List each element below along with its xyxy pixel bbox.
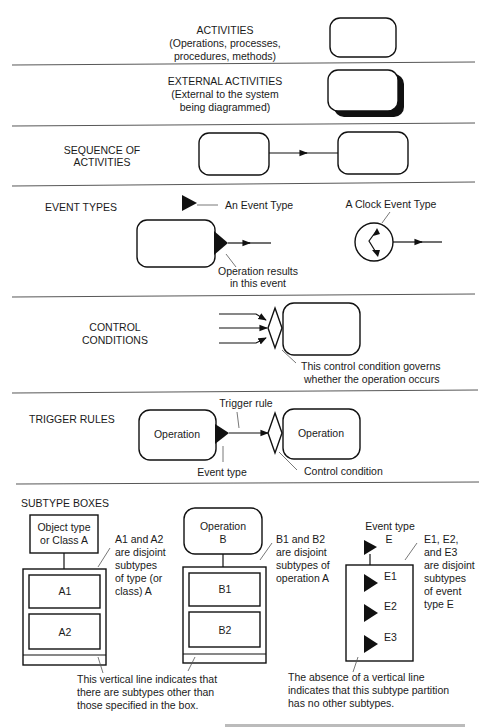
control-note-2: whether the operation occurs (303, 373, 439, 385)
subtype-b1-label: B1 (219, 583, 232, 595)
operation-parent-label-1: Operation (200, 520, 246, 532)
trigger-left-op-label: Operation (154, 428, 200, 440)
subtype-e2-label: E2 (384, 600, 397, 612)
event-note-6: type E (424, 598, 454, 610)
object-parent-label-2: or Class A (40, 534, 88, 546)
section-sequence: SEQUENCE OF ACTIVITIES (64, 132, 408, 175)
event-subtype-group: Event type E E1 E2 E3 E1, E2, and E3 are… (346, 520, 475, 661)
trigger-right-op-label: Operation (298, 427, 344, 439)
control-input-arrow-3 (219, 338, 266, 343)
sequence-title-2: ACTIVITIES (73, 156, 130, 168)
activities-subtitle-1: (Operations, processes, (169, 37, 280, 49)
activities-subtitle-2: procedures, methods) (174, 50, 276, 62)
control-input-arrow-1 (219, 314, 266, 320)
divider (12, 62, 475, 65)
sequence-activity-1 (199, 133, 269, 175)
trigger-control-condition-label: Control condition (304, 465, 383, 477)
event-result-triangle-icon (214, 231, 228, 255)
object-subtype-group: Object type or Class A A1 A2 A1 and A2 a… (23, 515, 166, 665)
object-parent-label-1: Object type (37, 521, 90, 533)
trigger-rule-label: Trigger rule (219, 397, 272, 409)
event-operation-shape (137, 220, 215, 267)
subtype-b2-label: B2 (219, 624, 232, 636)
divider (12, 390, 478, 393)
object-note-4: of type (or (115, 572, 163, 584)
operation-note-2: are disjoint (276, 546, 327, 558)
object-note-1: A1 and A2 (115, 533, 164, 545)
event-type-e-triangle-icon (364, 540, 377, 555)
leader-line (405, 543, 417, 560)
subtype-a1-label: A1 (59, 585, 72, 597)
object-note-3: subtypes (115, 559, 157, 571)
divider (12, 294, 475, 297)
vertical-line-note-3: those specified in the box. (77, 699, 198, 711)
event-result-label-1: Operation results (218, 265, 298, 277)
event-types-title: EVENT TYPES (45, 201, 117, 213)
control-conditions-title-2: CONDITIONS (82, 334, 148, 346)
external-activities-title: EXTERNAL ACTIVITIES (168, 75, 283, 87)
trigger-control-diamond-icon (268, 413, 282, 453)
divider (16, 482, 479, 484)
operation-note-1: B1 and B2 (276, 533, 325, 545)
section-subtype-boxes: SUBTYPE BOXES Object type or Class A A1 … (21, 497, 475, 711)
activities-title: ACTIVITIES (196, 24, 253, 36)
section-activities: ACTIVITIES (Operations, processes, proce… (169, 18, 396, 62)
control-condition-diamond-icon (268, 308, 282, 348)
event-parent-label-2: E (385, 533, 392, 545)
trigger-rules-title: TRIGGER RULES (29, 413, 115, 425)
leader-line (98, 548, 110, 567)
vertical-line-note-1: This vertical line indicates that (77, 673, 217, 685)
event-result-label-2: in this event (230, 277, 286, 289)
external-activity-shape (328, 70, 398, 111)
leader-line (237, 412, 239, 428)
section-control-conditions: CONTROL CONDITIONS This control conditio… (82, 303, 440, 385)
subtype-e1-label: E1 (384, 570, 397, 582)
clock-event-icon (355, 223, 393, 261)
external-activities-subtitle-1: (External to the system (171, 88, 279, 100)
diagram-notation-legend: ACTIVITIES (Operations, processes, proce… (0, 0, 496, 727)
operation-note-3: subtypes of (276, 559, 330, 571)
leader-line (382, 212, 390, 223)
activity-shape (330, 18, 396, 57)
event-note-3: are disjoint (424, 559, 475, 571)
operation-note-4: operation A (276, 572, 329, 584)
absence-note-3: has no other subtypes. (288, 697, 394, 709)
sequence-title-1: SEQUENCE OF (64, 144, 140, 156)
event-note-5: of event (424, 585, 461, 597)
event-type-label: An Event Type (225, 199, 293, 211)
section-event-types: EVENT TYPES An Event Type Operation resu… (45, 195, 442, 289)
external-activities-subtitle-2: being diagrammed) (180, 101, 270, 113)
event-note-2: and E3 (424, 546, 457, 558)
control-conditions-title-1: CONTROL (89, 321, 140, 333)
trigger-event-type-label: Event type (197, 466, 247, 478)
event-parent-label-1: Event type (365, 520, 415, 532)
subtype-a2-label: A2 (59, 626, 72, 638)
divider (12, 123, 475, 126)
controlled-operation-shape (283, 303, 360, 355)
subtype-e3-label: E3 (384, 631, 397, 643)
event-note-1: E1, E2, (424, 533, 458, 545)
event-type-triangle-icon (182, 195, 197, 211)
subtype-boxes-title: SUBTYPE BOXES (21, 497, 109, 509)
section-external-activities: EXTERNAL ACTIVITIES (External to the sys… (168, 70, 404, 117)
operation-subtype-group: Operation B B1 B2 B1 and B2 are disjoint… (183, 508, 330, 663)
vertical-line-note-2: there are subtypes other than (77, 686, 214, 698)
control-note-1: This control condition governs (301, 360, 441, 372)
trigger-event-triangle-icon (215, 424, 229, 444)
event-note-4: subtypes (424, 572, 466, 584)
absence-note-1: The absence of a vertical line (288, 671, 425, 683)
object-note-2: are disjoint (115, 546, 166, 558)
sequence-activity-2 (338, 132, 408, 174)
event-subtype-container (346, 565, 413, 661)
clock-event-label: A Clock Event Type (346, 198, 437, 210)
object-note-5: class) A (115, 585, 152, 597)
absence-note-2: indicates that this subtype partition (288, 684, 449, 696)
section-trigger-rules: TRIGGER RULES Trigger rule Operation Ope… (29, 397, 383, 478)
operation-parent-label-2: B (219, 533, 226, 545)
divider (12, 182, 475, 186)
